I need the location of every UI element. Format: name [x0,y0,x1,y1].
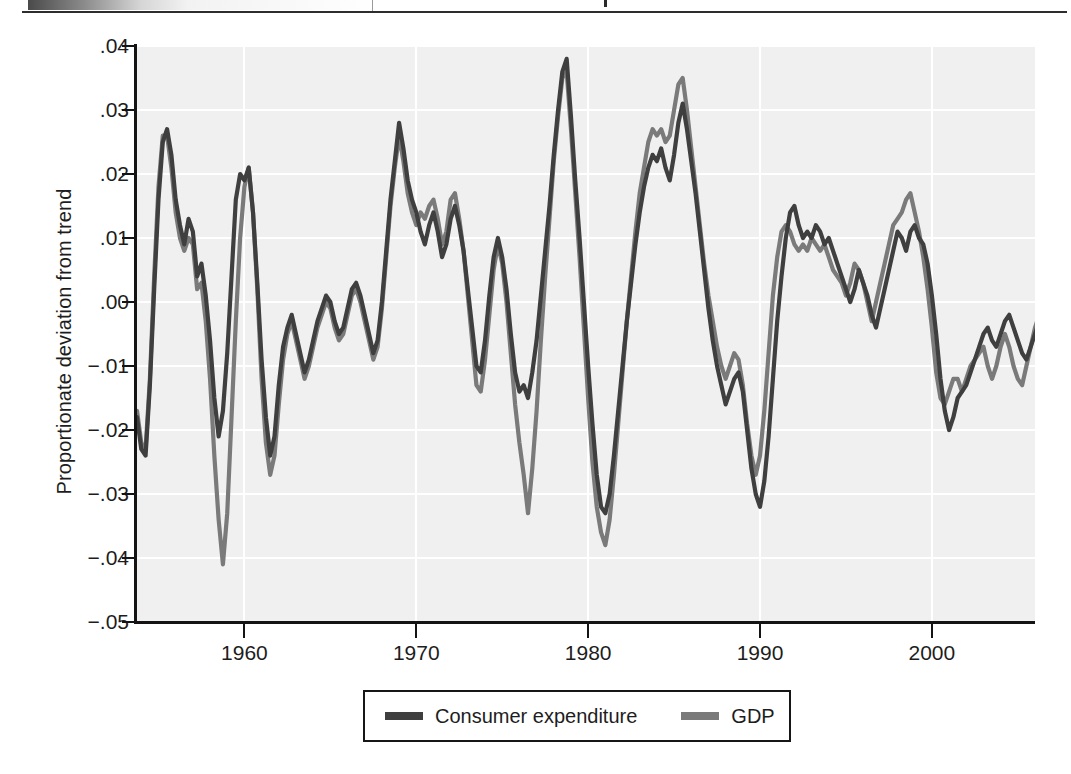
legend-entry-gdp: GDP [681,705,774,728]
y-axis-tick-label: −.04 [59,546,129,570]
x-axis-tick-label: 1960 [184,641,304,665]
y-axis-tick-label: .01 [59,226,129,250]
x-axis-tick-mark [415,624,417,638]
x-axis-tick-mark [587,624,589,638]
y-axis-tick-label: .00 [59,290,129,314]
x-axis-tick-mark [759,624,761,638]
y-axis-tick-mark [122,173,135,175]
y-axis-tick-mark [122,301,135,303]
y-axis-tick-label: −.03 [59,482,129,506]
y-axis-tick-mark [122,45,135,47]
y-axis-tick-labels: .04.03.02.01.00−.01−.02−.03−.04−.05 [55,0,129,774]
x-axis-tick-mark [243,624,245,638]
y-axis-tick-mark [122,557,135,559]
x-axis-tick-label: 2000 [872,641,992,665]
x-axis-tick-mark [931,624,933,638]
y-axis-tick-mark [122,237,135,239]
chart-legend: Consumer expenditure GDP [363,690,791,742]
y-axis-tick-mark [122,493,135,495]
y-axis-spine [134,44,137,624]
y-axis-tick-label: −.01 [59,354,129,378]
legend-label-gdp: GDP [731,705,774,728]
legend-label-consumer-expenditure: Consumer expenditure [435,705,637,728]
x-axis-spine [134,621,1035,624]
legend-entry-consumer-expenditure: Consumer expenditure [385,705,637,728]
y-axis-tick-mark [122,429,135,431]
legend-swatch-icon-consumer-expenditure [385,712,423,720]
x-axis-tick-label: 1980 [528,641,648,665]
y-axis-tick-mark [122,621,135,623]
y-axis-tick-label: .04 [59,34,129,58]
legend-swatch-icon-gdp [681,712,719,720]
series-lines [137,46,1035,622]
y-axis-tick-label: −.05 [59,610,129,634]
y-axis-tick-mark [122,109,135,111]
series-line-consumer-expenditure [137,59,1035,513]
x-axis-tick-label: 1970 [356,641,476,665]
y-axis-tick-label: .02 [59,162,129,186]
y-axis-tick-label: −.02 [59,418,129,442]
x-axis-tick-label: 1990 [700,641,820,665]
plot-area [137,46,1035,622]
y-axis-tick-label: .03 [59,98,129,122]
chart-figure: Proportionate deviation from trend .04.0… [0,0,1071,774]
y-axis-tick-mark [122,365,135,367]
